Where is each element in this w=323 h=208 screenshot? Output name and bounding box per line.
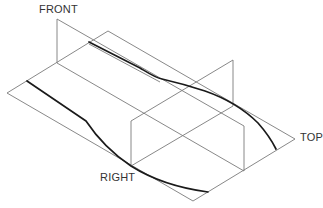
right-label: RIGHT [100,172,135,183]
profile-curve-upper [89,42,276,149]
front-construction-line [89,44,160,82]
top-plane [7,31,295,201]
top-label: TOP [300,132,323,143]
right-plane [131,60,233,166]
front-label: FRONT [39,4,78,15]
